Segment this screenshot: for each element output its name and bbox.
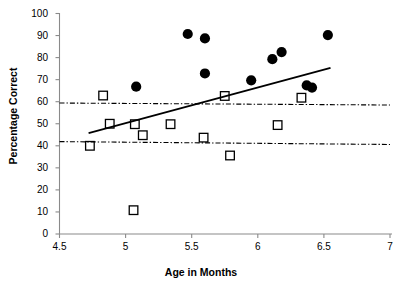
data-point-filled-circle	[200, 68, 210, 78]
data-point-open-square	[86, 142, 95, 151]
data-point-open-square	[99, 91, 108, 100]
data-point-filled-circle	[246, 75, 256, 85]
data-point-open-square	[226, 151, 235, 160]
data-point-filled-circle	[131, 82, 141, 92]
regression-trendline	[89, 68, 331, 133]
data-point-open-square	[129, 206, 138, 215]
data-point-filled-circle	[267, 54, 277, 64]
data-point-filled-circle	[323, 30, 333, 40]
plot-canvas	[0, 0, 402, 290]
data-point-open-square	[297, 93, 306, 102]
upper-reference-line	[60, 103, 391, 105]
data-point-filled-circle	[183, 29, 193, 39]
data-point-open-square	[138, 131, 147, 140]
data-point-filled-circle	[276, 47, 286, 57]
data-point-filled-circle	[200, 33, 210, 43]
lower-reference-line	[60, 142, 391, 145]
scatter-plot-figure: Percentage Correct Age in Months 0102030…	[0, 0, 402, 290]
data-point-filled-circle	[307, 82, 317, 92]
data-point-open-square	[166, 120, 175, 129]
data-point-open-square	[199, 133, 208, 142]
data-point-open-square	[273, 121, 282, 130]
